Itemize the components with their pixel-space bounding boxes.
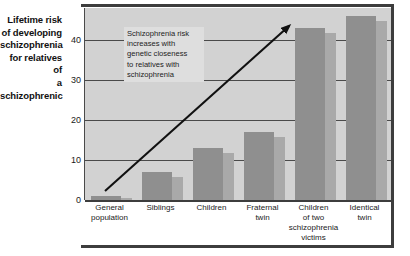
x-axis-label-line: victims (288, 233, 339, 243)
x-axis-labels: GeneralpopulationSiblingsChildrenFratern… (84, 203, 390, 253)
chart-frame-top-rule (81, 4, 394, 7)
annotation-line-4: to relatives with (127, 60, 201, 70)
y-tick-label-0: 0 (76, 195, 81, 205)
y-tick-label-20: 20 (71, 115, 81, 125)
x-axis-label-line: of two (288, 213, 339, 223)
gridline-0: 0 (85, 200, 391, 202)
y-axis-caption-line-2: of developing (0, 27, 62, 40)
bar-group (346, 16, 387, 200)
annotation-line-5: schizophrenia (127, 70, 201, 80)
chart-frame-right-rule (391, 4, 394, 248)
bar-group (91, 196, 132, 200)
bar-general-population (91, 196, 121, 200)
bar-children-of-two-schizophrenia-victims (295, 28, 325, 200)
annotation-textbox: Schizophrenia risk increases with geneti… (124, 27, 204, 82)
x-axis-label-line: twin (339, 213, 390, 223)
y-axis-caption-line-1: Lifetime risk (0, 14, 62, 27)
y-axis-caption-line-3: schizophrenia (0, 39, 62, 52)
bar-children (193, 148, 223, 200)
x-axis-label-general-population: Generalpopulation (84, 203, 135, 223)
x-axis-label-fraternal-twin: Fraternaltwin (237, 203, 288, 223)
annotation-line-1: Schizophrenia risk (127, 29, 201, 39)
annotation-line-3: genetic closeness (127, 49, 201, 59)
x-axis-label-line: twin (237, 213, 288, 223)
x-axis-label-line: Fraternal (237, 203, 288, 213)
bar-identical-twin (346, 16, 376, 200)
bar-group (295, 28, 336, 200)
x-axis-label-line: Children (186, 203, 237, 213)
chart-root: Lifetime risk of developing schizophreni… (0, 0, 410, 256)
bar-group (193, 148, 234, 200)
bar-group (142, 172, 183, 200)
bar-siblings (142, 172, 172, 200)
x-axis-label-children-of-two-schizophrenia-victims: Childrenof twoschizophreniavictims (288, 203, 339, 243)
x-axis-label-line: schizophrenia (288, 223, 339, 233)
y-axis-caption: Lifetime risk of developing schizophreni… (0, 14, 62, 102)
x-axis-label-children: Children (186, 203, 237, 213)
x-axis-label-line: population (84, 213, 135, 223)
x-axis-label-line: Siblings (135, 203, 186, 213)
x-axis-label-siblings: Siblings (135, 203, 186, 213)
y-tick-label-40: 40 (71, 35, 81, 45)
x-axis-label-line: General (84, 203, 135, 213)
y-axis-caption-line-5: a schizophrenic (0, 77, 62, 102)
annotation-line-2: increases with (127, 39, 201, 49)
x-axis-label-line: Children (288, 203, 339, 213)
bar-fraternal-twin (244, 132, 274, 200)
y-tick-label-10: 10 (71, 155, 81, 165)
y-tick-label-30: 30 (71, 75, 81, 85)
x-axis-label-identical-twin: Identicaltwin (339, 203, 390, 223)
bar-group (244, 132, 285, 200)
x-axis-label-line: Identical (339, 203, 390, 213)
y-axis-caption-line-4: for relatives of (0, 52, 62, 77)
